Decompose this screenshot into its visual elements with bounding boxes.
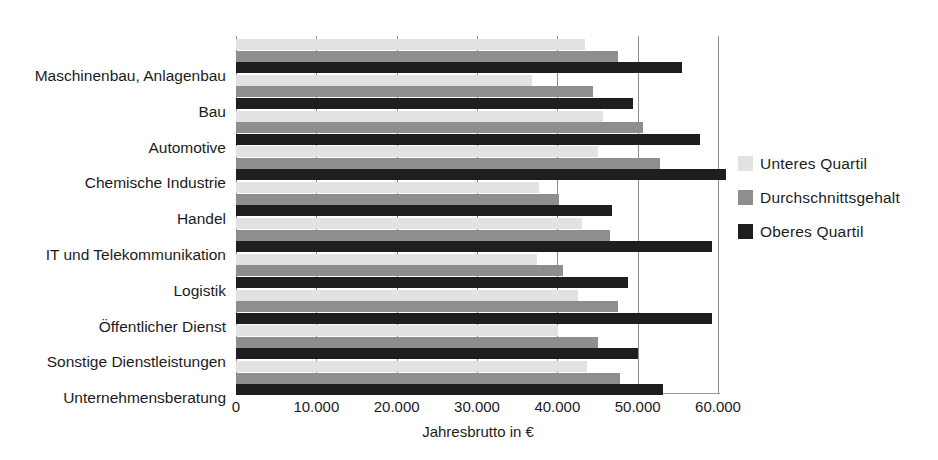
bar-avg <box>236 230 610 241</box>
legend-item: Durchschnittsgehalt <box>738 189 934 223</box>
bar-q1 <box>236 290 578 301</box>
legend-label: Unteres Quartil <box>760 155 867 173</box>
x-tick-label: 20.000 <box>352 398 442 415</box>
plot-area <box>236 36 720 394</box>
bar-q3 <box>236 134 700 145</box>
category-label: Maschinenbau, Anlagenbau <box>0 68 226 84</box>
x-tick-label: 10.000 <box>271 398 361 415</box>
bar-avg <box>236 86 593 97</box>
category-label: Logistik <box>0 283 226 299</box>
bar-q1 <box>236 75 532 86</box>
category-label: Chemische Industrie <box>0 175 226 191</box>
category-axis-labels: Maschinenbau, AnlagenbauBauAutomotiveChe… <box>0 56 230 384</box>
bar-q3 <box>236 313 712 324</box>
bar-q3 <box>236 277 628 288</box>
legend-swatch-icon <box>738 224 753 239</box>
gridline-50000 <box>638 36 639 394</box>
legend-label: Durchschnittsgehalt <box>760 189 900 207</box>
bar-avg <box>236 301 618 312</box>
category-label: Sonstige Dienstleistungen <box>0 354 226 370</box>
category-label: Öffentlicher Dienst <box>0 319 226 335</box>
bar-avg <box>236 265 563 276</box>
x-tick-label: 60.000 <box>673 398 763 415</box>
category-label: Handel <box>0 211 226 227</box>
category-label: Automotive <box>0 140 226 156</box>
bar-q3 <box>236 241 712 252</box>
bar-avg <box>236 373 620 384</box>
bar-q1 <box>236 39 585 50</box>
x-axis-title: Jahresbrutto in € <box>236 423 720 440</box>
bar-q3 <box>236 205 612 216</box>
bar-avg <box>236 158 660 169</box>
cropped-header-sliver <box>14 0 434 5</box>
bar-avg <box>236 194 559 205</box>
legend-swatch-icon <box>738 156 753 171</box>
bar-q3 <box>236 98 633 109</box>
bar-q1 <box>236 111 603 122</box>
salary-bar-chart: Maschinenbau, AnlagenbauBauAutomotiveChe… <box>0 0 938 460</box>
legend-item: Unteres Quartil <box>738 155 934 189</box>
bar-q1 <box>236 146 598 157</box>
bar-q3 <box>236 384 663 395</box>
bar-avg <box>236 51 618 62</box>
bar-q3 <box>236 348 638 359</box>
gridline-60000 <box>718 36 719 394</box>
x-tick-label: 50.000 <box>593 398 683 415</box>
bar-q1 <box>236 218 582 229</box>
bar-q1 <box>236 254 537 265</box>
x-tick-label: 0 <box>191 398 281 415</box>
bar-q1 <box>236 182 539 193</box>
x-tick-label: 40.000 <box>512 398 602 415</box>
bar-q3 <box>236 169 726 180</box>
category-label: Bau <box>0 104 226 120</box>
bar-q1 <box>236 361 587 372</box>
x-tick-label: 30.000 <box>432 398 522 415</box>
legend-item: Oberes Quartil <box>738 223 934 257</box>
legend-label: Oberes Quartil <box>760 223 864 241</box>
legend-swatch-icon <box>738 190 753 205</box>
bar-q3 <box>236 62 682 73</box>
chart-legend: Unteres QuartilDurchschnittsgehaltOberes… <box>738 155 934 257</box>
bar-avg <box>236 337 598 348</box>
bar-avg <box>236 122 643 133</box>
bar-q1 <box>236 325 558 336</box>
category-label: IT und Telekommunikation <box>0 247 226 263</box>
